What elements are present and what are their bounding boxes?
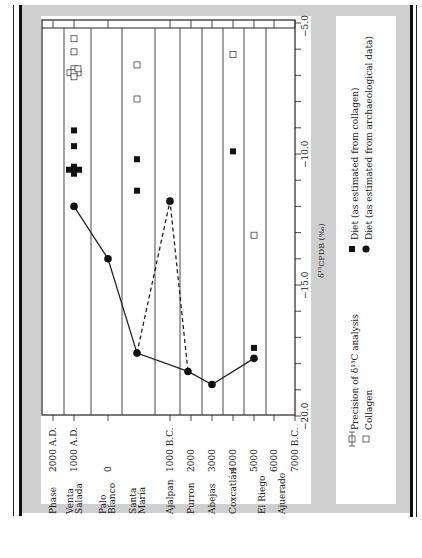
diet-collagen-marker xyxy=(134,188,140,194)
diet-collagen-marker xyxy=(230,148,236,154)
time-tick-label: 2000 A.D. xyxy=(48,427,58,472)
diet-archaeological-marker xyxy=(133,349,141,357)
legend-open-square-icon xyxy=(363,436,369,442)
plot-frame xyxy=(42,20,295,415)
collagen-marker xyxy=(134,96,140,102)
diet-archaeological-marker xyxy=(208,381,216,389)
chart-plot xyxy=(0,0,422,558)
time-tick-label: 1000 A.D. xyxy=(69,427,79,472)
legend-diet-collagen-label: Diet (as estimated from collagen) xyxy=(350,87,360,240)
phase-label: Purron xyxy=(186,482,196,514)
phase-label: Blanco xyxy=(107,483,117,514)
collagen-marker xyxy=(71,74,77,80)
diet-collagen-marker xyxy=(71,171,77,177)
legend-diet-archaeological-label: Diet (as estimated from archaeological d… xyxy=(364,36,374,240)
legend-filled-square-icon xyxy=(349,246,355,252)
time-tick-label: 3000 xyxy=(207,449,217,472)
diet-archaeological-marker xyxy=(104,255,112,263)
legend-filled-circle-icon xyxy=(362,245,369,252)
legend-collagen-label: Collagen xyxy=(364,390,374,430)
phase-label: Ajuerado xyxy=(277,473,287,514)
diet-collagen-marker xyxy=(134,156,140,162)
legend-precision-label: Precision of δ¹³C analysis xyxy=(350,314,360,430)
phase-label: Abejas xyxy=(207,484,217,514)
phase-label: María xyxy=(137,487,147,514)
d13c-tick-label: −20.0 xyxy=(300,402,310,430)
time-tick-label: 6000 xyxy=(269,449,279,472)
time-tick-label: 1000 B.C. xyxy=(165,427,175,472)
collagen-marker xyxy=(71,49,77,55)
collagen-marker xyxy=(75,66,81,72)
phase-header: Phase xyxy=(48,487,58,514)
collagen-marker xyxy=(71,36,77,42)
d13c-axis-title: δ¹³CPDB (‰) xyxy=(317,223,327,278)
collagen-marker xyxy=(134,62,140,68)
time-tick-label: 0 xyxy=(103,466,113,472)
d13c-tick-label: −10.0 xyxy=(300,140,310,168)
phase-label: Coxcatlán xyxy=(228,469,238,514)
diet-collagen-marker xyxy=(71,143,77,149)
collagen-marker xyxy=(251,232,257,238)
phase-label: Ajalpan xyxy=(165,480,175,514)
diet-collagen-marker xyxy=(251,345,257,351)
diet-collagen-marker xyxy=(71,127,77,133)
d13c-tick-label: −5.0 xyxy=(300,15,310,37)
time-tick-label: 2000 xyxy=(186,449,196,472)
collagen-marker xyxy=(230,51,236,57)
diet-archaeological-marker xyxy=(184,368,192,376)
d13c-tick-label: −15.0 xyxy=(300,271,310,299)
phase-label: Salada xyxy=(74,483,84,514)
diet-archaeological-marker xyxy=(250,355,258,363)
time-tick-label: 7000 B.C. xyxy=(290,427,300,472)
phase-label: El Riego xyxy=(257,476,267,514)
diet-archaeological-marker xyxy=(70,203,78,211)
diet-archaeological-marker xyxy=(166,197,174,205)
time-tick-label: 5000 xyxy=(249,449,259,472)
